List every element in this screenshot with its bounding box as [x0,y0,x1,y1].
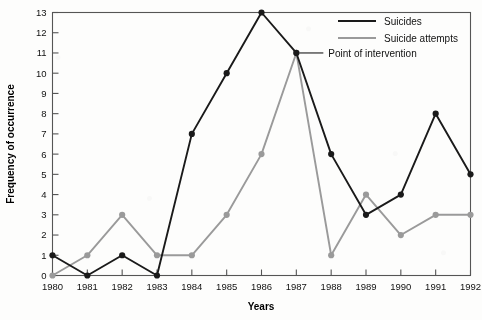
series-line [53,53,471,276]
y-tick-label-0: 0 [41,270,46,281]
data-point [467,212,473,218]
data-point [293,50,299,56]
y-axis-ticks: 012345678910111213 [36,7,59,281]
annotation-layer: Point of intervention [299,48,416,59]
data-point [467,171,473,177]
annotation-label: Point of intervention [328,48,416,59]
data-point [189,252,195,258]
data-point [433,212,439,218]
data-point [433,111,439,117]
legend-item-suicide-attempts: Suicide attempts [338,33,458,44]
x-axis-ticks: 1980198119821983198419851986198719881989… [42,270,481,292]
x-tick-label-1987: 1987 [286,281,307,292]
legend-item-suicides: Suicides [338,16,422,27]
x-tick-label-1983: 1983 [146,281,167,292]
data-point [258,151,264,157]
x-tick-label-1989: 1989 [355,281,376,292]
data-point [328,151,334,157]
x-tick-label-1986: 1986 [251,281,272,292]
data-point [154,272,160,278]
y-tick-label-6: 6 [41,149,46,160]
y-tick-label-3: 3 [41,209,46,220]
x-tick-label-1980: 1980 [42,281,63,292]
x-tick-label-1985: 1985 [216,281,237,292]
x-tick-label-1991: 1991 [425,281,446,292]
y-tick-label-9: 9 [41,88,46,99]
x-tick-label-1984: 1984 [181,281,202,292]
chart-legend: SuicidesSuicide attempts [338,16,458,44]
x-tick-label-1982: 1982 [112,281,133,292]
data-point [154,252,160,258]
y-tick-label-13: 13 [36,7,47,18]
data-point [189,131,195,137]
y-tick-label-10: 10 [36,68,47,79]
y-tick-label-12: 12 [36,27,47,38]
y-tick-label-7: 7 [41,128,46,139]
series-suicide-attempts [49,50,473,279]
y-tick-label-1: 1 [41,250,46,261]
y-tick-label-4: 4 [41,189,46,200]
data-point [363,191,369,197]
data-point [119,252,125,258]
data-point [328,252,334,258]
y-tick-label-11: 11 [37,47,47,58]
data-point [224,212,230,218]
y-tick-label-8: 8 [41,108,46,119]
x-tick-label-1990: 1990 [390,281,411,292]
chart-container: 012345678910111213 198019811982198319841… [0,0,482,320]
x-axis-title: Years [248,301,275,312]
data-point [398,191,404,197]
y-axis-title: Frequency of occurrence [5,84,16,204]
legend-label: Suicide attempts [384,33,458,44]
data-point [84,252,90,258]
data-point [49,272,55,278]
y-tick-label-5: 5 [41,169,46,180]
x-tick-label-1981: 1981 [77,281,98,292]
data-point [363,212,369,218]
line-chart: 012345678910111213 198019811982198319841… [0,0,482,320]
legend-label: Suicides [384,16,422,27]
data-point [398,232,404,238]
data-point [258,9,264,15]
data-point [224,70,230,76]
data-point [84,272,90,278]
y-tick-label-2: 2 [41,229,46,240]
data-point [119,212,125,218]
x-tick-label-1988: 1988 [321,281,342,292]
data-point [49,252,55,258]
x-tick-label-1992: 1992 [460,281,481,292]
